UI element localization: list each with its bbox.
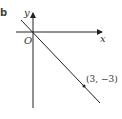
part-label: b bbox=[0, 7, 7, 18]
x-axis-label: x bbox=[100, 33, 106, 44]
point-label: (3, −3) bbox=[86, 74, 118, 84]
point-marker bbox=[83, 85, 86, 88]
graph: b y x O (3, −3) bbox=[0, 0, 122, 119]
origin-label: O bbox=[24, 35, 32, 46]
y-axis-label: y bbox=[23, 7, 30, 18]
